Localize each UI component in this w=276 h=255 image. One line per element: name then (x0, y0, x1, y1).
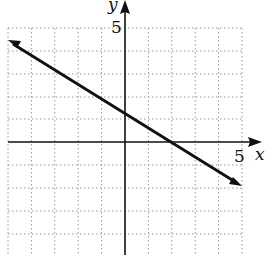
x-axis-label: x (255, 144, 265, 164)
coordinate-plane: 5 5 x y (0, 0, 276, 255)
y-axis-label: y (107, 0, 118, 14)
y-axis-arrow-icon (120, 0, 130, 14)
x-tick-label: 5 (234, 146, 245, 166)
axes (8, 6, 254, 255)
y-tick-label: 5 (111, 17, 122, 37)
